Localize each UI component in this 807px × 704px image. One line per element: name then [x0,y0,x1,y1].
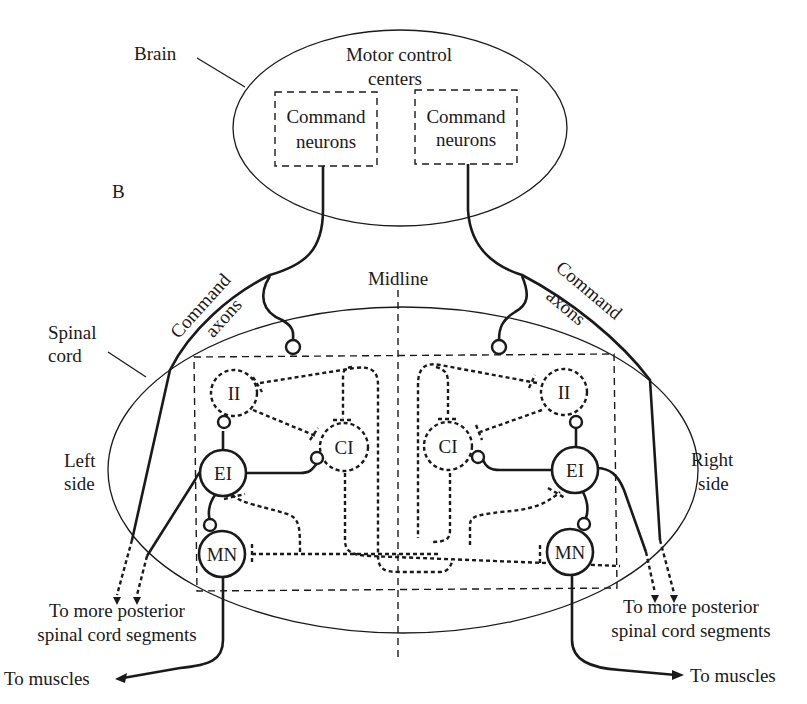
posterior-right-label-2: spinal cord segments [611,620,770,641]
ci-neuron-left-label: CI [335,437,354,458]
ei-to-ci-right-connector [483,460,553,470]
spinal-cord-label-2: cord [48,345,82,366]
spinal-cord-label-1: Spinal [48,322,97,343]
posterior-right-label-1: To more posterior [623,596,760,617]
ci-right-top-path [436,367,448,417]
brain-label: Brain [134,43,177,64]
posterior-arrow-left-1 [117,540,132,595]
mn-right-feedback-path [470,492,560,545]
posterior-arrow-right-2 [660,540,674,593]
ci-left-side-bar [310,428,318,440]
arrowhead-muscles-left [115,673,127,683]
arrowhead-muscles-right [672,670,684,680]
ii-left-to-cross-path [260,368,452,572]
left-side-label-1: Left [64,450,96,471]
posterior-arrow-left-2 [137,556,147,595]
mn-neuron-left-label: MN [207,544,238,565]
ei-axon-right-posterior [596,468,646,552]
command-axon-left-branch [263,276,293,340]
brain-pointer-line [197,58,245,87]
mn-neuron-right-label: MN [555,542,586,563]
right-side-label-2: side [698,473,729,494]
ci-left-top-path [343,367,352,418]
muscles-right-label: To muscles [690,665,776,686]
synapse-mn-left [204,519,216,531]
synapse-ci-left [311,452,323,464]
command-neurons-box-right [415,90,517,164]
synapse-command-right [492,340,506,354]
synapse-mn-right [578,518,590,530]
ii-to-ci-right-path [480,410,542,432]
ei-to-mn-right-connector [583,492,587,518]
command-neurons-right-label-1: Command [426,106,506,127]
ei-to-mn-left-connector [209,495,215,520]
right-side-label-1: Right [691,449,734,470]
motor-control-label-1: Motor control [346,44,452,65]
ci-neuron-right-label: CI [439,436,458,457]
command-neurons-right-label-2: neurons [436,129,496,150]
synapse-ii-right [570,416,582,428]
left-side-label-2: side [64,473,95,494]
ii-neuron-left-label: II [228,383,241,404]
posterior-left-label-1: To more posterior [49,600,186,621]
locomotor-circuit-diagram: B Brain Motor control centers Command ne… [0,0,807,704]
midline-label: Midline [368,268,428,289]
synapse-ci-right [472,451,484,463]
command-neurons-left-label-2: neurons [296,131,356,152]
motor-control-label-2: centers [368,68,422,89]
command-neurons-box-left [275,92,377,166]
spinal-cord-pointer-line [108,352,146,377]
ei-to-ci-left-connector [246,462,318,473]
posterior-left-label-2: spinal cord segments [37,624,196,645]
panel-label: B [112,181,125,202]
muscles-left-label: To muscles [4,668,90,689]
command-axon-right-branch [499,276,527,340]
ci-right-down-path [430,473,450,542]
ii-neuron-right-label: II [558,382,571,403]
ei-neuron-left-label: EI [214,463,232,484]
synapse-command-left [286,340,300,354]
synapse-ii-left [218,416,230,428]
command-neurons-left-label-1: Command [286,106,366,127]
ii-to-ci-left-path [253,410,316,436]
ei-neuron-right-label: EI [566,460,584,481]
